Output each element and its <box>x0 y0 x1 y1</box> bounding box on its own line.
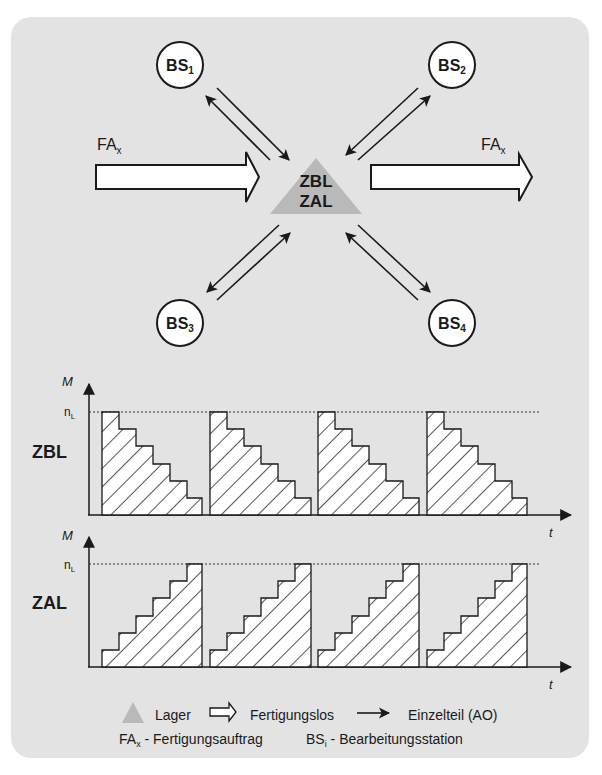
flow-in-label: FA <box>97 136 117 153</box>
storage-label-zal: ZAL <box>299 192 332 211</box>
storage-label-zbl: ZBL <box>299 172 332 191</box>
legend-bs-definition: BSi - Bearbeitungsstation <box>306 731 463 749</box>
flow-out-label: FA <box>481 136 501 153</box>
legend-part-label: Einzelteil (AO) <box>408 707 497 723</box>
zal-chart-label: ZAL <box>32 593 67 613</box>
zal-y-axis-label: M <box>62 528 73 543</box>
legend-fa-definition: FAx - Fertigungsauftrag <box>119 731 263 749</box>
zbl-y-axis-label: M <box>62 374 73 389</box>
legend-lot-label: Fertigungslos <box>250 707 334 723</box>
material-flow-diagram: ZBL ZAL FAx FAx BS1 BS2 BS3 <box>0 0 602 775</box>
zbl-chart-label: ZBL <box>32 442 67 462</box>
legend-storage-label: Lager <box>155 707 191 723</box>
